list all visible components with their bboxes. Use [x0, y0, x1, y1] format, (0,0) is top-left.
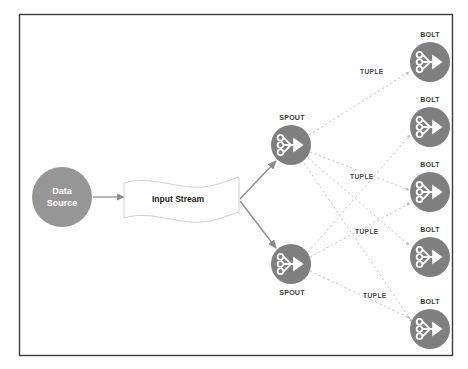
- spout-bottom-label: SPOUT: [272, 289, 312, 296]
- spout-top-node[interactable]: [271, 125, 311, 165]
- input-stream-label: Input Stream: [152, 195, 204, 204]
- bolt-2-label: BOLT: [412, 96, 448, 103]
- bolt-3-node[interactable]: [410, 172, 450, 212]
- tuple-label-4: TUPLE: [363, 293, 387, 300]
- data-source-label: Data Source: [32, 185, 92, 209]
- data-source-label-line1: Data: [32, 185, 92, 197]
- bolt-3-label: BOLT: [412, 161, 448, 168]
- bolt-4-node[interactable]: [410, 237, 450, 277]
- bolt-5-label: BOLT: [412, 298, 448, 305]
- spout-top-label: SPOUT: [272, 114, 312, 121]
- data-source-label-line2: Source: [32, 197, 92, 209]
- bolt-2-node[interactable]: [410, 107, 450, 147]
- spout-bottom-node[interactable]: [271, 244, 311, 284]
- bolt-1-label: BOLT: [412, 31, 448, 38]
- bolt-1-node[interactable]: [410, 42, 450, 82]
- tuple-label-2: TUPLE: [350, 174, 374, 181]
- diagram-canvas: Data Source Input Stream SPOUT SPOUT BOL…: [0, 0, 468, 369]
- tuple-label-3: TUPLE: [355, 229, 379, 236]
- tuple-label-1: TUPLE: [360, 69, 384, 76]
- bolt-5-node[interactable]: [410, 309, 450, 349]
- bolt-4-label: BOLT: [412, 226, 448, 233]
